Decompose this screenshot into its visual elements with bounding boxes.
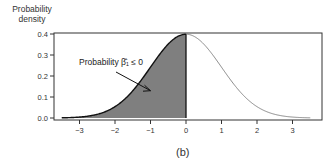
plot-frame (54, 33, 322, 120)
y-tick-label: 0.1 (38, 93, 48, 102)
density-curve-right (186, 34, 310, 118)
x-tick-label: 2 (255, 126, 259, 135)
y-tick-label: 0.4 (38, 30, 48, 39)
figure-caption: (b) (176, 146, 189, 158)
x-tick-label: 0 (184, 126, 188, 135)
x-tick-label: −1 (146, 126, 155, 135)
x-tick-label: 1 (219, 126, 223, 135)
plot-area (62, 34, 311, 118)
x-tick-label: 3 (290, 126, 294, 135)
y-tick-label: 0.0 (38, 114, 48, 123)
y-tick-label: 0.2 (38, 72, 48, 81)
x-tick-label: −2 (111, 126, 120, 135)
y-tick-label: 0.3 (38, 51, 48, 60)
normal-density-chart: 0.00.10.20.30.4−3−2−10123 (0, 0, 328, 166)
probability-annotation: Probability β̂₁ ≤ 0 (79, 57, 143, 67)
x-tick-label: −3 (75, 126, 84, 135)
